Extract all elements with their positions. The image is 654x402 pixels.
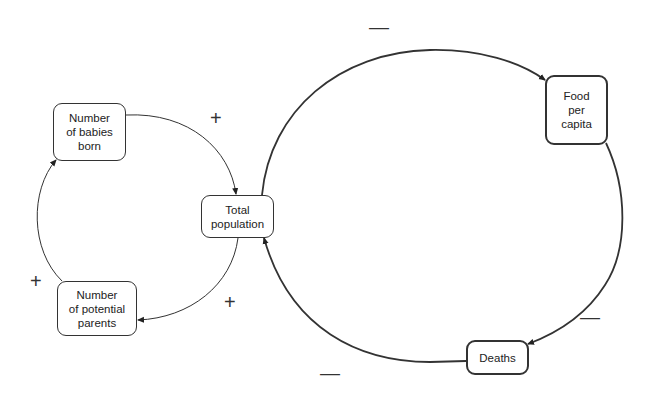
arrow-total-to-parents [138,238,238,320]
arrow-total-to-food [262,50,545,195]
node-babies-born: Number of babies born [53,103,126,161]
node-total-population: Total population [201,195,274,238]
arrow-parents-to-babies [37,160,62,281]
node-deaths: Deaths [466,340,529,375]
node-food-per-capita: Food per capita [545,75,608,145]
sign-total-to-food: — [369,17,389,37]
sign-parents-to-babies: + [30,271,42,291]
sign-babies-to-total: + [210,108,222,128]
arrow-food-to-deaths [528,143,622,344]
sign-deaths-to-total: — [320,363,340,383]
node-potential-parents: Number of potential parents [57,281,137,336]
sign-total-to-parents: + [224,292,236,312]
arrow-deaths-to-total [264,238,466,362]
sign-food-to-deaths: — [580,307,600,327]
loop-arrows [0,0,654,402]
